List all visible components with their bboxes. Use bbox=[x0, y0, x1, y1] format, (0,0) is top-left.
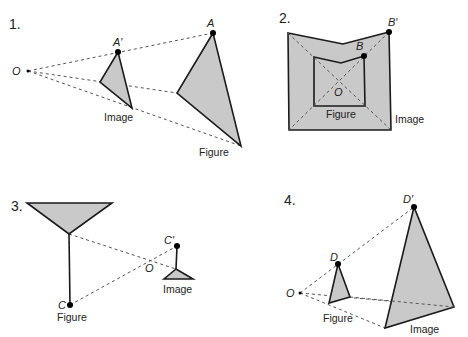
center-label: O bbox=[12, 65, 21, 77]
figure-label: Figure bbox=[326, 108, 356, 120]
panel-number: 3. bbox=[11, 198, 23, 214]
panel-1: 1. O A A′ Image Figure bbox=[9, 16, 241, 158]
ray-c-to-c-prime bbox=[70, 246, 177, 305]
point-d-prime-label: D′ bbox=[403, 193, 414, 205]
figure-label: Figure bbox=[57, 311, 87, 323]
dilation-diagrams: 1. O A A′ Image Figure 2. O B B′ Figure … bbox=[0, 0, 468, 337]
point-d-label: D bbox=[330, 251, 338, 263]
image-label: Image bbox=[163, 283, 192, 295]
figure-label: Figure bbox=[323, 312, 353, 324]
center-point bbox=[299, 292, 302, 295]
panel-4: 4. O D D′ Figure Image bbox=[284, 192, 454, 335]
point-c-prime-label: C′ bbox=[164, 234, 175, 246]
point-a-prime-label: A′ bbox=[112, 36, 123, 48]
image-triangle bbox=[164, 269, 193, 279]
figure-label: Figure bbox=[199, 146, 229, 158]
image-label: Image bbox=[104, 111, 133, 123]
center-label: O bbox=[334, 86, 343, 98]
image-triangle bbox=[100, 52, 132, 108]
point-c-label: C bbox=[58, 299, 66, 311]
image-label: Image bbox=[395, 113, 424, 125]
panel-2: 2. O B B′ Figure Image bbox=[279, 10, 424, 130]
panel-number: 1. bbox=[9, 16, 21, 32]
image-stem bbox=[176, 246, 177, 269]
center-label: O bbox=[286, 287, 295, 299]
center-point bbox=[27, 70, 30, 73]
image-triangle bbox=[385, 207, 454, 328]
point-c-prime bbox=[174, 243, 180, 249]
panel-3: 3. O C C′ Figure Image bbox=[11, 198, 193, 323]
figure-triangle bbox=[27, 203, 112, 234]
figure-triangle bbox=[177, 33, 241, 146]
point-c bbox=[67, 302, 73, 308]
point-b-prime-label: B′ bbox=[388, 16, 398, 28]
image-label: Image bbox=[410, 323, 439, 335]
center-label: O bbox=[145, 262, 154, 274]
panel-number: 2. bbox=[279, 10, 291, 26]
figure-stem bbox=[69, 234, 70, 305]
panel-number: 4. bbox=[284, 192, 296, 208]
point-b bbox=[361, 53, 367, 59]
point-a bbox=[210, 30, 216, 36]
point-b-prime bbox=[386, 29, 392, 35]
point-a-prime bbox=[115, 49, 121, 55]
point-b-label: B bbox=[356, 40, 363, 52]
figure-triangle bbox=[329, 264, 350, 303]
point-a-label: A bbox=[206, 17, 214, 29]
ray-vertex-to-image bbox=[69, 234, 176, 269]
